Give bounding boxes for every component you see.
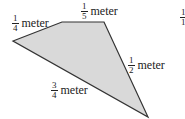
fraction: 14 (12, 14, 19, 33)
fraction: 12 (128, 56, 135, 75)
side-label-top-left: 14 meter (12, 14, 49, 33)
side-label-top: 15 meter (81, 2, 118, 21)
fraction: 34 (51, 81, 58, 100)
cutoff-fraction: 11 (180, 8, 185, 27)
side-label-bottom: 34 meter (51, 81, 88, 100)
fraction: 15 (81, 2, 88, 21)
side-label-right: 12 meter (128, 56, 165, 75)
